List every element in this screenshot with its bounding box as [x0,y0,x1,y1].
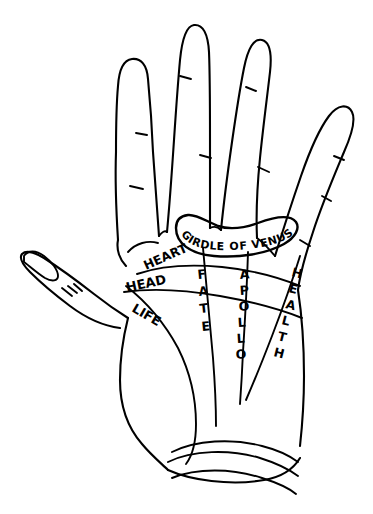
label-health-letter-4: T [276,328,288,345]
hand-illustration: GIRDLE OF VENUS HEART HEAD LIFE F A T E … [0,0,373,514]
label-apollo: A P O L L O [235,266,250,362]
little-finger-outline [275,106,354,290]
label-apollo-letter-3: L [237,314,246,330]
palm-upper-left-edge [117,240,126,266]
label-apollo-letter-2: O [238,298,250,314]
label-fate-letter-3: E [201,318,211,334]
palmistry-diagram: GIRDLE OF VENUS HEART HEAD LIFE F A T E … [0,0,373,514]
labels-group: GIRDLE OF VENUS HEART HEAD LIFE F A T E … [125,226,305,362]
ring-finger-outline [221,40,271,238]
middle-finger-outline [167,25,210,232]
index-base-crease [128,242,158,252]
hand-outline-group [21,25,354,494]
label-fate-letter-1: A [198,283,210,299]
label-apollo-letter-4: L [236,330,245,346]
wrist-bracelet-1 [172,441,298,462]
label-health-letter-2: A [284,296,297,313]
palm-right-edge [298,290,304,446]
label-health-letter-0: H [290,264,304,281]
label-fate: F A T E [197,266,211,334]
label-apollo-letter-1: P [239,282,249,298]
web-index-middle [159,231,167,236]
label-health-letter-5: H [272,344,286,361]
label-head: HEAD [125,272,168,295]
label-apollo-letter-0: A [239,266,250,282]
palm-left-edge [120,318,168,470]
index-finger-outline [116,59,159,240]
label-health-letter-3: L [280,312,291,328]
label-health-letter-1: E [287,280,299,297]
label-fate-letter-0: F [197,266,207,282]
label-apollo-letter-5: O [235,346,247,362]
